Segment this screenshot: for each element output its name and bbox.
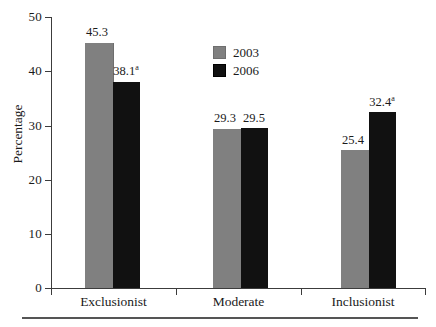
bar-exclusionist-2003[interactable] xyxy=(85,43,114,289)
value-text: 29.5 xyxy=(243,111,265,125)
value-label-inclusionist-2003: 25.4 xyxy=(326,134,380,147)
legend-label-2003: 2003 xyxy=(233,46,259,59)
x-category-label-moderate: Moderate xyxy=(176,294,301,310)
value-label-exclusionist-2006: 38.1a xyxy=(99,65,153,78)
value-label-inclusionist-2006: 32.4a xyxy=(355,96,409,109)
x-category-label-exclusionist: Exclusionist xyxy=(51,294,176,310)
bar-exclusionist-2006[interactable] xyxy=(113,82,140,289)
x-category-label-inclusionist: Inclusionist xyxy=(301,294,425,310)
value-label-exclusionist-2003: 45.3 xyxy=(70,26,124,39)
legend-swatch-black-icon xyxy=(213,64,226,77)
legend-item-2006[interactable]: 2006 xyxy=(213,62,259,78)
value-text: 32.4 xyxy=(369,95,391,109)
y-tick-label-30: 30 xyxy=(10,119,42,132)
y-tick-label-10: 10 xyxy=(10,227,42,240)
bar-inclusionist-2003[interactable] xyxy=(341,150,370,288)
legend-swatch-gray-icon xyxy=(213,46,226,59)
legend-label-2006: 2006 xyxy=(233,64,259,77)
y-tick-label-0: 0 xyxy=(10,281,42,294)
value-text: 38.1 xyxy=(113,64,135,78)
bottom-rule-divider xyxy=(22,317,418,319)
chart-legend: 2003 2006 xyxy=(213,44,259,80)
y-tick-label-50: 50 xyxy=(10,10,42,23)
legend-item-2003[interactable]: 2003 xyxy=(213,44,259,60)
value-label-moderate-2006: 29.5 xyxy=(227,112,281,125)
x-tick-mark xyxy=(425,288,426,295)
bar-moderate-2006[interactable] xyxy=(241,128,268,288)
x-axis-line xyxy=(51,288,425,289)
footnote-marker: a xyxy=(391,94,395,103)
footnote-marker: a xyxy=(135,63,139,72)
y-tick-label-40: 40 xyxy=(10,64,42,77)
y-tick-label-20: 20 xyxy=(10,173,42,186)
bar-chart-figure: Percentage 0 10 20 30 40 50 xyxy=(0,0,436,327)
bar-moderate-2003[interactable] xyxy=(213,129,242,288)
